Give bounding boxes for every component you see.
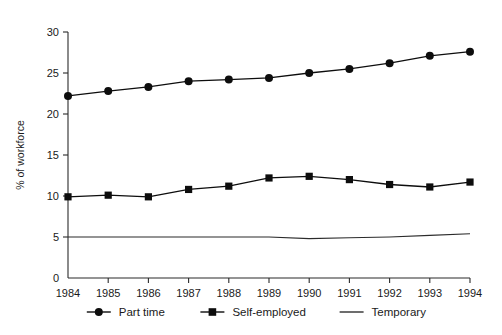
legend-label: Part time: [119, 306, 165, 318]
legend-marker-circle: [95, 308, 103, 316]
data-point: [305, 69, 313, 77]
data-point: [466, 48, 474, 56]
data-point: [185, 77, 193, 85]
data-point: [64, 92, 72, 100]
y-axis: 051015202530: [47, 26, 68, 284]
data-point: [426, 183, 433, 190]
x-tick-label: 1990: [297, 287, 321, 299]
series-line-temporary: [68, 234, 470, 239]
x-tick-label: 1987: [176, 287, 200, 299]
data-point: [386, 181, 393, 188]
y-tick-label: 5: [53, 231, 59, 243]
data-point: [144, 83, 152, 91]
data-point: [265, 74, 273, 82]
y-tick-label: 25: [47, 67, 59, 79]
data-point: [225, 76, 233, 84]
line-chart: 051015202530 198419851986198719881989199…: [8, 6, 494, 330]
figure-container: 051015202530 198419851986198719881989199…: [0, 0, 502, 335]
x-tick-label: 1993: [418, 287, 442, 299]
data-point: [265, 174, 272, 181]
chart-panel: 051015202530 198419851986198719881989199…: [8, 6, 494, 330]
data-point: [466, 178, 473, 185]
data-point: [104, 87, 112, 95]
y-tick-label: 0: [53, 272, 59, 284]
legend-label: Self-employed: [232, 306, 306, 318]
x-tick-label: 1985: [96, 287, 120, 299]
x-tick-label: 1986: [136, 287, 160, 299]
data-point: [145, 193, 152, 200]
x-tick-label: 1984: [56, 287, 80, 299]
x-tick-label: 1989: [257, 287, 281, 299]
chart-legend: Part timeSelf-employedTemporary: [87, 306, 426, 318]
y-tick-label: 10: [47, 190, 59, 202]
data-point: [225, 183, 232, 190]
series-line-part-time: [68, 52, 470, 96]
series-layer: [64, 48, 474, 239]
data-point: [105, 192, 112, 199]
data-point: [185, 186, 192, 193]
legend-label: Temporary: [372, 306, 427, 318]
x-tick-label: 1988: [217, 287, 241, 299]
x-axis: 1984198519861987198819891990199119921993…: [56, 278, 482, 299]
y-axis-title: % of workforce: [14, 120, 26, 190]
data-point: [346, 176, 353, 183]
data-point: [345, 65, 353, 73]
y-tick-label: 30: [47, 26, 59, 38]
x-tick-label: 1991: [337, 287, 361, 299]
legend-marker-square: [209, 308, 217, 316]
data-point: [64, 193, 71, 200]
x-tick-label: 1994: [458, 287, 482, 299]
y-tick-label: 15: [47, 149, 59, 161]
y-tick-label: 20: [47, 108, 59, 120]
data-point: [386, 59, 394, 67]
x-tick-label: 1992: [377, 287, 401, 299]
data-point: [306, 173, 313, 180]
data-point: [426, 52, 434, 60]
